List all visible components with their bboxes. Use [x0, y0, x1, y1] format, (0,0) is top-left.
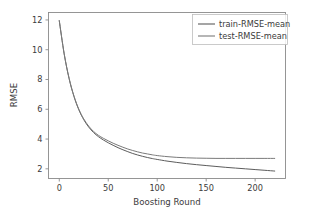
x-tick-label: 150 [198, 183, 214, 193]
x-tick-label: 200 [247, 183, 263, 193]
legend-label-test: test-RMSE-mean [219, 31, 287, 41]
y-tick-label: 2 [37, 164, 42, 174]
legend-label-train: train-RMSE-mean [219, 19, 290, 29]
y-tick-label: 4 [37, 134, 42, 144]
y-tick-label: 10 [32, 45, 42, 55]
x-tick-label: 50 [103, 183, 113, 193]
chart-legend[interactable]: train-RMSE-mean test-RMSE-mean [193, 15, 291, 45]
chart-canvas: 050100150200 24681012 Boosting Round RMS… [0, 0, 309, 216]
y-tick-label: 6 [37, 104, 42, 114]
x-tick-label: 100 [149, 183, 165, 193]
x-tick-label: 0 [57, 183, 62, 193]
x-axis-title: Boosting Round [133, 197, 200, 207]
y-tick-label: 12 [32, 15, 42, 25]
y-axis-title: RMSE [9, 83, 19, 107]
chart-figure: 050100150200 24681012 Boosting Round RMS… [0, 0, 309, 216]
y-tick-label: 8 [37, 74, 42, 84]
